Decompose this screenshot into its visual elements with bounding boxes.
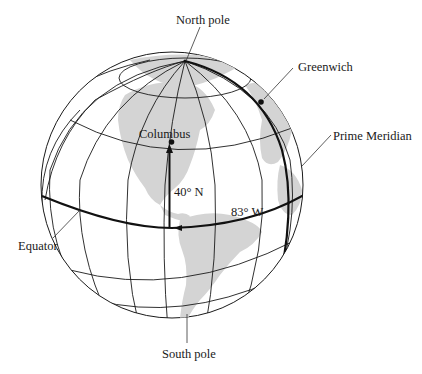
prime-meridian-label: Prime Meridian	[333, 129, 413, 143]
equator-label: Equator	[18, 239, 58, 253]
greenwich-label: Greenwich	[298, 60, 354, 74]
south-pole-label: South pole	[162, 347, 216, 361]
greenwich-leader	[264, 68, 293, 99]
prime-meridian-leader	[302, 135, 331, 166]
greenwich-point	[258, 99, 264, 105]
columbus-label: Columbus	[139, 127, 191, 141]
north-pole-label: North pole	[176, 13, 230, 27]
longitude-value-label: 83° W	[231, 205, 263, 219]
latitude-value-label: 40° N	[174, 185, 204, 199]
globe-diagram: North pole Greenwich Prime Meridian Colu…	[0, 0, 422, 374]
